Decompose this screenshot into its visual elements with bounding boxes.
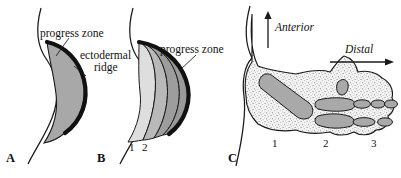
panel-c-radius	[315, 98, 355, 112]
panel-c-element-accessory	[337, 80, 349, 95]
panel-c-ulna	[315, 114, 354, 128]
panel-b-number-1: 1	[129, 142, 135, 153]
panel-c-digit-2	[371, 100, 385, 108]
panel-a-ectodermal-ridge-label-line2: ridge	[94, 62, 118, 74]
panel-c-digit-3	[385, 100, 398, 108]
anterior-arrow-icon	[264, 11, 271, 48]
panel-b-progress-zone-leader	[180, 55, 196, 70]
panel-c-letter: C	[228, 152, 237, 165]
panel-c-digit-4	[353, 118, 375, 127]
panel-c-digit-1	[354, 100, 371, 108]
panel-c-number-1: 1	[272, 138, 278, 149]
panel-b-progress-zone-label: progress zone	[160, 44, 224, 56]
panel-a-letter: A	[6, 152, 15, 165]
panel-a-progress-zone-fill	[44, 42, 84, 143]
panel-b-letter: B	[97, 152, 105, 165]
panel-c-number-3: 3	[371, 138, 377, 149]
distal-axis-label: Distal	[345, 44, 373, 56]
panel-a-ectodermal-ridge-label-line1: ectodermal	[80, 50, 131, 62]
panel-a-progress-zone-label: progress zone	[40, 28, 104, 40]
panel-c-digit-5	[378, 118, 393, 126]
anterior-axis-label: Anterior	[275, 22, 314, 34]
panel-b-number-2: 2	[142, 142, 148, 153]
panel-c-number-2: 2	[323, 138, 329, 149]
